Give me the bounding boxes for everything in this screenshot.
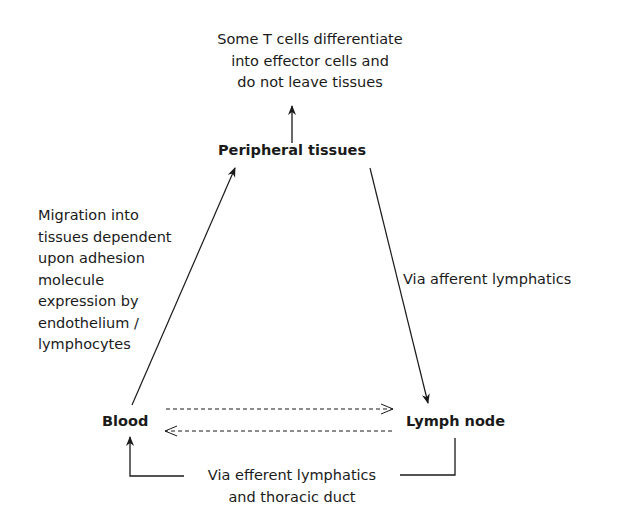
node-lymph-node: Lymph node <box>406 411 505 433</box>
afferent-note: Via afferent lymphatics <box>403 269 571 291</box>
migration-note: Migration into tissues dependent upon ad… <box>38 205 172 356</box>
efferent-note: Via efferent lymphatics and thoracic duc… <box>208 465 376 508</box>
arrow-lymph-to-blood-efferent <box>400 438 455 475</box>
node-peripheral-tissues: Peripheral tissues <box>218 140 366 162</box>
effector-note: Some T cells differentiate into effector… <box>217 29 402 94</box>
arrow-efferent-to-blood <box>130 437 184 476</box>
node-blood: Blood <box>102 411 148 433</box>
